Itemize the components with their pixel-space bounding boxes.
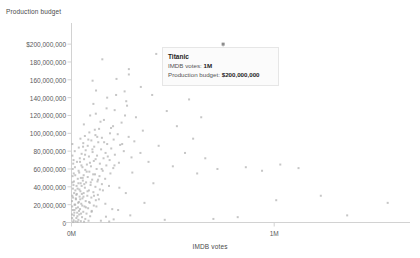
data-point[interactable] [113,164,115,166]
data-point[interactable] [82,142,84,144]
data-point[interactable] [121,122,123,124]
data-point[interactable] [83,174,85,176]
data-point[interactable] [82,177,84,179]
data-point[interactable] [128,68,130,70]
data-point[interactable] [84,218,86,220]
data-point[interactable] [81,193,83,195]
data-point[interactable] [73,172,75,174]
data-point[interactable] [88,220,90,222]
data-point[interactable] [85,206,87,208]
data-point[interactable] [83,221,85,223]
data-point[interactable] [93,205,95,207]
data-point[interactable] [196,172,198,174]
data-point[interactable] [117,133,119,135]
data-point[interactable] [81,205,83,207]
data-point[interactable] [73,159,75,161]
data-point[interactable] [112,167,114,169]
data-point[interactable] [133,140,135,142]
data-point[interactable] [71,213,73,215]
highlighted-data-point[interactable] [222,43,225,46]
data-point[interactable] [93,195,95,197]
data-point[interactable] [125,100,127,102]
data-point[interactable] [94,173,96,175]
data-point[interactable] [117,209,119,211]
data-point[interactable] [97,194,99,196]
data-point[interactable] [143,202,145,204]
data-point[interactable] [77,182,79,184]
data-point[interactable] [95,199,97,201]
data-point[interactable] [86,213,88,215]
data-point[interactable] [109,132,111,134]
data-point[interactable] [100,220,102,222]
data-point[interactable] [95,158,97,160]
data-point[interactable] [87,176,89,178]
data-point[interactable] [101,168,103,170]
data-point[interactable] [118,162,120,164]
data-point[interactable] [76,215,78,217]
data-point[interactable] [76,185,78,187]
data-point[interactable] [118,187,120,189]
data-point[interactable] [85,149,87,151]
data-point[interactable] [261,170,263,172]
data-point[interactable] [142,130,144,132]
data-point[interactable] [75,197,77,199]
data-point[interactable] [76,161,78,163]
data-point[interactable] [110,127,112,129]
data-point[interactable] [84,154,86,156]
data-point[interactable] [77,202,79,204]
data-point[interactable] [166,110,168,112]
data-point[interactable] [99,189,101,191]
data-point[interactable] [151,94,153,96]
data-point[interactable] [192,138,194,140]
data-point[interactable] [84,169,86,171]
data-point[interactable] [89,114,91,116]
data-point[interactable] [78,170,80,172]
data-point[interactable] [94,129,96,131]
data-point[interactable] [90,139,92,141]
data-point[interactable] [84,135,86,137]
data-point[interactable] [113,139,115,141]
data-point[interactable] [88,131,90,133]
data-point[interactable] [237,216,239,218]
data-point[interactable] [81,185,83,187]
data-point[interactable] [90,165,92,167]
data-point[interactable] [387,202,389,204]
data-point[interactable] [105,164,107,166]
data-point[interactable] [88,156,90,158]
data-point[interactable] [81,166,83,168]
data-point[interactable] [75,207,77,209]
data-point[interactable] [89,162,91,164]
data-point[interactable] [72,188,74,190]
data-point[interactable] [87,139,89,141]
data-point[interactable] [124,90,126,92]
data-point[interactable] [172,165,174,167]
data-point[interactable] [80,177,82,179]
data-point[interactable] [84,187,86,189]
data-point[interactable] [74,174,76,176]
data-point[interactable] [92,173,94,175]
data-point[interactable] [94,134,96,136]
data-point[interactable] [80,164,82,166]
data-point[interactable] [74,189,76,191]
data-point[interactable] [90,184,92,186]
data-point[interactable] [81,216,83,218]
data-point[interactable] [107,156,109,158]
data-point[interactable] [104,178,106,180]
data-point[interactable] [89,215,91,217]
data-point[interactable] [98,175,100,177]
data-point[interactable] [77,221,79,223]
data-point[interactable] [131,156,133,158]
data-point[interactable] [72,175,74,177]
data-point[interactable] [78,147,80,149]
data-point[interactable] [95,113,97,115]
data-point[interactable] [87,190,89,192]
data-point[interactable] [102,189,104,191]
data-point[interactable] [101,183,103,185]
data-point[interactable] [78,213,80,215]
data-point[interactable] [99,163,101,165]
data-point[interactable] [72,197,74,199]
data-point[interactable] [93,160,95,162]
data-point[interactable] [103,157,105,159]
data-point[interactable] [75,217,77,219]
data-point[interactable] [131,172,133,174]
